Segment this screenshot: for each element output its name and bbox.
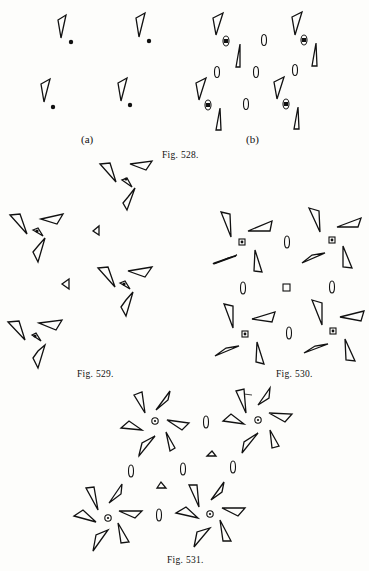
plate-illustrations bbox=[0, 0, 369, 571]
fig530-caption: Fig. 530. bbox=[276, 369, 313, 379]
fig529-pattern bbox=[8, 161, 152, 368]
fig528-label-a: (a) bbox=[81, 133, 93, 145]
fig531-pattern bbox=[74, 388, 292, 551]
fig529-caption: Fig. 529. bbox=[77, 369, 114, 379]
fig528-label-b: (b) bbox=[246, 133, 259, 145]
fig528b-pattern bbox=[196, 12, 317, 130]
fig531-caption: Fig. 531. bbox=[167, 555, 204, 565]
fig530-pattern bbox=[213, 208, 364, 364]
fig528-caption: Fig. 528. bbox=[162, 150, 199, 160]
fig528a-pattern bbox=[41, 13, 151, 109]
